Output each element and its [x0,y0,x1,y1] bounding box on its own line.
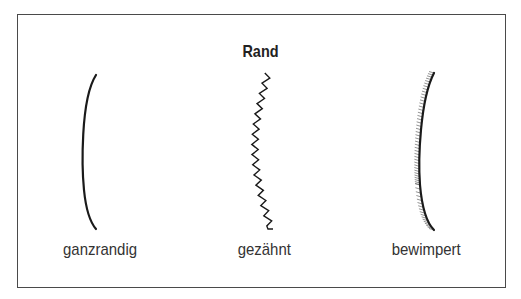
label-ganzrandig: ganzrandig [63,240,137,260]
ciliate-edge-curve [414,72,434,231]
serrated-edge-curve [252,73,273,229]
label-gezaehnt: gezähnt [238,240,291,260]
smooth-edge-curve [83,75,96,229]
label-bewimpert: bewimpert [392,240,461,260]
